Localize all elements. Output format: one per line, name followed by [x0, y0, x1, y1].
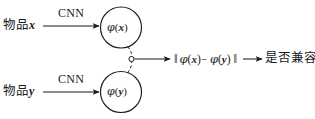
dashed-link-x-to-junction — [128, 47, 132, 58]
merge-junction-icon — [129, 56, 134, 61]
node-paren-close-y: ) — [123, 85, 127, 97]
node-phi-symbol-y: φ — [107, 85, 115, 98]
norm-bar-right: ‖ — [233, 51, 236, 66]
distance-formula: ‖ φ(x)− φ(y) ‖ — [174, 52, 236, 66]
figure-canvas: 物品x CNN 物品y CNN φ(x) φ(y) ‖ φ(x)− φ(y) ‖… — [0, 0, 315, 119]
input-label-item-x-variable: x — [29, 18, 35, 32]
edge-label-cnn-x: CNN — [58, 7, 84, 19]
dashed-link-y-to-junction — [128, 61, 132, 73]
node-phi-symbol-x: φ — [107, 21, 115, 34]
input-label-item-x-prefix: 物品 — [3, 18, 29, 32]
formula-phi-1: φ — [180, 52, 188, 66]
node-paren-close-x: ) — [124, 21, 128, 33]
node-label-embedding-x: φ(x) — [107, 22, 128, 33]
input-label-item-y: 物品y — [3, 85, 34, 98]
output-label-compatibility: 是否兼容? — [265, 52, 315, 65]
input-label-item-y-variable: y — [29, 84, 34, 98]
formula-operator: − — [201, 53, 207, 65]
formula-paren-close-2: ) — [227, 53, 231, 65]
norm-bar-left: ‖ — [174, 51, 177, 66]
edge-label-cnn-y: CNN — [58, 73, 84, 85]
node-label-embedding-y: φ(y) — [107, 86, 127, 97]
input-label-item-y-prefix: 物品 — [3, 84, 29, 98]
input-label-item-x: 物品x — [3, 19, 35, 32]
formula-phi-2: φ — [210, 52, 218, 66]
